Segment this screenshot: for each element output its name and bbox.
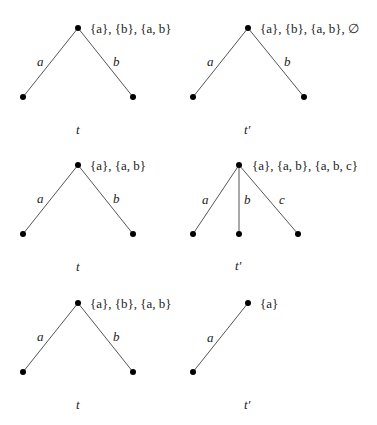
tree-caption: t xyxy=(76,259,80,274)
edge-label: b xyxy=(113,54,120,69)
edge-label: a xyxy=(207,330,214,345)
edge-label: b xyxy=(244,192,251,207)
edge-a xyxy=(193,28,248,97)
root-label: {a}, {b}, {a, b}, ∅ xyxy=(260,21,359,36)
edge-label: a xyxy=(202,192,209,207)
edge-a xyxy=(23,303,78,372)
root-node xyxy=(245,300,251,306)
edge-label: b xyxy=(113,191,120,206)
leaf-node xyxy=(190,369,196,375)
edge-label: a xyxy=(37,191,44,206)
edge-label: a xyxy=(37,329,44,344)
tree-caption: t xyxy=(76,397,80,412)
root-label: {a} xyxy=(260,296,278,311)
tree-t-row2: a b {a}, {a, b} t xyxy=(20,158,146,274)
tree-caption: t′ xyxy=(235,258,242,273)
root-label: {a}, {a, b} xyxy=(90,158,146,173)
root-label: {a}, {b}, {a, b} xyxy=(90,296,171,311)
edge-a xyxy=(193,303,248,372)
leaf-node xyxy=(301,94,307,100)
tree-t-prime-row1: a b {a}, {b}, {a, b}, ∅ t′ xyxy=(190,21,359,137)
tree-t-prime-row2: a b c {a}, {a, b}, {a, b, c} t′ xyxy=(190,158,358,273)
leaf-node xyxy=(295,231,301,237)
root-label: {a}, {b}, {a, b} xyxy=(90,21,171,36)
tree-t-prime-row3: a {a} t′ xyxy=(190,296,278,412)
edge-label: b xyxy=(284,54,291,69)
tree-diagrams: a b {a}, {b}, {a, b} t a b {a}, {b}, {a,… xyxy=(0,0,377,425)
tree-t-row1: a b {a}, {b}, {a, b} t xyxy=(20,21,171,137)
edge-a xyxy=(23,165,78,234)
edge-label: a xyxy=(37,54,44,69)
leaf-node xyxy=(190,231,196,237)
leaf-node xyxy=(130,369,136,375)
root-node xyxy=(75,25,81,31)
edge-label: a xyxy=(207,54,214,69)
root-label: {a}, {a, b}, {a, b, c} xyxy=(252,158,358,173)
leaf-node xyxy=(20,369,26,375)
tree-caption: t′ xyxy=(244,122,251,137)
leaf-node xyxy=(20,94,26,100)
edge-label: c xyxy=(279,192,285,207)
root-node xyxy=(245,25,251,31)
edge-b xyxy=(78,303,133,372)
leaf-node xyxy=(20,231,26,237)
edge-b xyxy=(78,165,133,234)
root-node xyxy=(75,162,81,168)
tree-t-row3: a b {a}, {b}, {a, b} t xyxy=(20,296,171,412)
leaf-node xyxy=(130,231,136,237)
edge-a xyxy=(193,165,239,234)
leaf-node xyxy=(190,94,196,100)
tree-caption: t′ xyxy=(244,397,251,412)
leaf-node xyxy=(130,94,136,100)
edge-b xyxy=(78,28,133,97)
edge-b xyxy=(248,28,304,97)
leaf-node xyxy=(236,231,242,237)
tree-caption: t xyxy=(76,122,80,137)
root-node xyxy=(75,300,81,306)
edge-label: b xyxy=(113,329,120,344)
root-node xyxy=(236,162,242,168)
edge-a xyxy=(23,28,78,97)
